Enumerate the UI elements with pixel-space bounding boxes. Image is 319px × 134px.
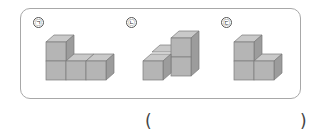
answer-open-paren: ( [145,111,152,131]
answer-blank[interactable] [158,112,298,132]
figure-3-cubes [232,33,292,89]
figure-label-2: ㉡ [126,17,137,28]
figure-2-cubes [140,28,210,90]
answer-close-paren: ) [300,111,307,131]
figure-label-3: ㉢ [221,17,232,28]
figure-label-1: ㉠ [33,17,44,28]
figure-1-cubes [40,30,120,90]
